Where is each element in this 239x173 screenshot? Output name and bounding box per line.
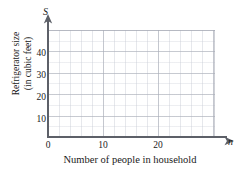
y-axis-title-line-1: Refrigerator size — [11, 8, 23, 120]
y-axis-title-line-2: (in cubic feet) — [22, 8, 34, 120]
y-axis-line — [47, 18, 49, 138]
x-tick-label-20: 20 — [146, 140, 170, 150]
plot-grid-area — [48, 30, 215, 137]
y-axis-variable-label: S — [36, 6, 48, 18]
x-tick-label-10: 10 — [91, 140, 115, 150]
y-axis-title: Refrigerator size (in cubic feet) — [11, 8, 34, 120]
graph-figure: S n 40 30 20 10 0 10 20 Refrigerator siz… — [0, 0, 239, 173]
x-axis-line — [47, 136, 227, 138]
x-axis-title: Number of people in household — [40, 154, 220, 166]
x-tick-label-0: 0 — [36, 140, 60, 150]
x-axis-variable-label: n — [228, 136, 239, 148]
grid-right-border — [214, 30, 215, 137]
grid-top-border — [48, 30, 215, 31]
